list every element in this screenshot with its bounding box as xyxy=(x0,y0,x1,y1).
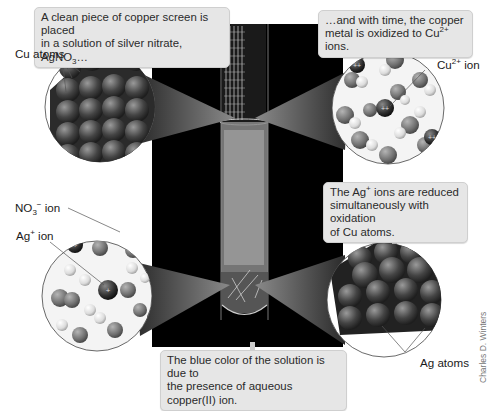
callout-text: in a solution of silver nitrate, AgNO3… xyxy=(41,37,223,63)
svg-text:++: ++ xyxy=(428,134,436,141)
callout-text: A clean piece of copper screen is placed xyxy=(41,11,223,37)
svg-text:+: + xyxy=(106,286,111,295)
svg-text:++: ++ xyxy=(381,105,389,112)
test-tube xyxy=(220,24,268,320)
label-cu-atoms: Cu atoms xyxy=(15,47,65,60)
label-cu-ion: Cu2+ ion xyxy=(437,58,480,71)
callout-text: metal is oxidized to Cu2+ ions. xyxy=(325,27,466,53)
callout-text: The blue color of the solution is due to xyxy=(167,354,340,380)
callout-blue-color: The blue color of the solution is due to… xyxy=(160,350,347,411)
photo-credit: Charles D. Winters xyxy=(478,312,488,383)
callout-pointer xyxy=(250,342,255,350)
callout-text: The Ag+ ions are reduced xyxy=(330,186,461,199)
label-ag-atoms: Ag atoms xyxy=(420,356,469,369)
label-no3-ion: NO3− ion xyxy=(15,201,60,214)
callout-copper-oxidized: …and with time, the copper metal is oxid… xyxy=(318,10,473,58)
callout-text: the presence of aqueous copper(II) ion. xyxy=(167,380,340,406)
callout-text: simultaneously with oxidation xyxy=(330,199,461,225)
cu-ion-solution-circle: ++++++ xyxy=(332,51,444,164)
callout-ag-reduced: The Ag+ ions are reduced simultaneously … xyxy=(323,182,468,243)
label-ag-ion: Ag+ ion xyxy=(16,229,54,242)
callout-text: of Cu atoms. xyxy=(330,226,461,239)
